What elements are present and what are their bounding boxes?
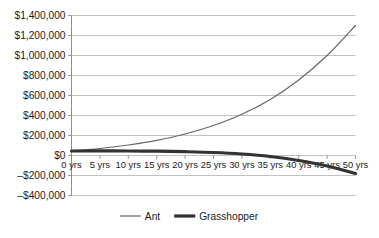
line-chart: $1,400,000$1,200,000$1,000,000$800,000$6… (0, 0, 379, 238)
y-axis-tick-label: $200,000 (23, 130, 66, 141)
legend-label-ant: Ant (145, 211, 160, 222)
y-axis-labels: $1,400,000$1,200,000$1,000,000$800,000$6… (15, 10, 66, 201)
x-axis-tick-label: 35 yrs (258, 159, 284, 170)
x-axis-tick-label: 20 yrs (172, 159, 198, 170)
x-axis-tick-label: 25 yrs (201, 159, 227, 170)
x-axis-tick-label: 30 yrs (229, 159, 255, 170)
legend-item: Grasshopper (174, 211, 258, 222)
y-axis-tick-label: –$200,000 (17, 170, 65, 181)
chart-container: $1,400,000$1,200,000$1,000,000$800,000$6… (0, 0, 379, 238)
x-axis-tick-label: 5 yrs (90, 159, 111, 170)
x-axis-tick-label: 0 yrs (61, 159, 82, 170)
y-axis-tick-label: $1,400,000 (15, 10, 66, 21)
y-axis-tick-label: $600,000 (23, 90, 66, 101)
x-axis-tick-label: 50 yrs (343, 159, 369, 170)
series-line-ant (72, 26, 356, 152)
x-axis-tick-label: 10 yrs (116, 159, 142, 170)
y-axis-tick-label: –$400,000 (17, 190, 65, 201)
y-axis-tick-label: $800,000 (23, 70, 66, 81)
legend-label-grasshopper: Grasshopper (199, 211, 258, 222)
legend-item: Ant (120, 211, 160, 222)
series-lines (72, 26, 356, 174)
chart-legend: AntGrasshopper (120, 211, 259, 222)
x-axis-tick-label: 15 yrs (144, 159, 170, 170)
y-axis-tick-label: $1,200,000 (15, 30, 66, 41)
y-axis-tick-label: $400,000 (23, 110, 66, 121)
y-axis-tick-label: $1,000,000 (15, 50, 66, 61)
